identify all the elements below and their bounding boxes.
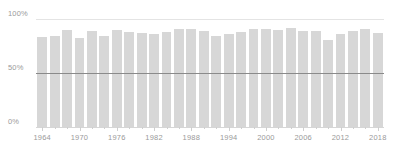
bar [286, 28, 296, 127]
x-axis-ticks [36, 127, 384, 132]
bar [373, 33, 383, 127]
x-axis-tick [80, 127, 81, 131]
x-axis-tick-label: 1988 [183, 133, 201, 142]
bar [174, 29, 184, 127]
x-axis-tick-minor [278, 127, 279, 129]
bar [75, 38, 85, 127]
x-axis-tick-minor [142, 127, 143, 129]
x-axis-tick-label: 2012 [332, 133, 350, 142]
x-axis-tick [191, 127, 192, 131]
x-axis-tick-minor [353, 127, 354, 129]
x-axis-tick [229, 127, 230, 131]
bar [186, 29, 196, 127]
x-axis-tick-label: 1982 [145, 133, 163, 142]
x-axis-tick-minor [254, 127, 255, 129]
bar [273, 30, 283, 127]
x-axis-tick [42, 127, 43, 131]
bar-chart: 100% 50% 0% 1964197019761982198819942000… [0, 0, 396, 154]
bar [124, 32, 134, 127]
x-axis-tick-minor [67, 127, 68, 129]
bar [149, 34, 159, 127]
bar-series [36, 0, 384, 127]
bar [360, 29, 370, 127]
y-axis-label-50: 50% [8, 63, 24, 72]
reference-line-50 [36, 73, 384, 74]
x-axis-tick-minor [291, 127, 292, 129]
bar [249, 29, 259, 127]
bar [37, 37, 47, 127]
x-axis-tick-label: 2018 [369, 133, 387, 142]
plot-area: 1964197019761982198819942000200620122018 [36, 0, 384, 154]
x-axis-tick-label: 1964 [33, 133, 51, 142]
x-axis-tick-minor [316, 127, 317, 129]
x-axis-tick-minor [179, 127, 180, 129]
bar [162, 32, 172, 127]
x-axis-tick-label: 1970 [71, 133, 89, 142]
bar [224, 34, 234, 127]
x-axis-tick [341, 127, 342, 131]
bar [87, 31, 97, 127]
x-axis-tick-minor [365, 127, 366, 129]
x-axis-tick-minor [167, 127, 168, 129]
bar [99, 36, 109, 127]
x-axis-tick-minor [328, 127, 329, 129]
bar [137, 33, 147, 127]
bar [323, 40, 333, 127]
bar [50, 36, 60, 127]
bar [199, 31, 209, 127]
x-axis-tick [117, 127, 118, 131]
x-axis-tick-minor [241, 127, 242, 129]
bar [211, 36, 221, 127]
x-axis-tick-minor [216, 127, 217, 129]
bar [311, 31, 321, 127]
bar [112, 30, 122, 127]
x-axis-labels: 1964197019761982198819942000200620122018 [36, 133, 384, 147]
bar [336, 34, 346, 127]
x-axis-tick-label: 1976 [108, 133, 126, 142]
y-axis-label-100: 100% [8, 9, 28, 18]
bar [236, 32, 246, 127]
x-axis-tick-minor [204, 127, 205, 129]
bar [298, 31, 308, 127]
x-axis-tick-label: 2000 [257, 133, 275, 142]
x-axis-tick-minor [92, 127, 93, 129]
x-axis-tick [154, 127, 155, 131]
x-axis-tick [378, 127, 379, 131]
bar [348, 31, 358, 127]
y-axis-label-0: 0% [8, 117, 19, 126]
x-axis-tick-label: 1994 [220, 133, 238, 142]
x-axis-tick [266, 127, 267, 131]
x-axis-tick-minor [104, 127, 105, 129]
x-axis-tick-minor [55, 127, 56, 129]
bar [261, 29, 271, 127]
x-axis-tick-minor [129, 127, 130, 129]
x-axis-tick [303, 127, 304, 131]
bar [62, 30, 72, 127]
x-axis-tick-label: 2006 [294, 133, 312, 142]
